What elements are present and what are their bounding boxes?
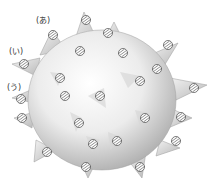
receptor-marker-icon: [16, 95, 25, 104]
receptor-marker-icon: [60, 92, 69, 101]
receptor-marker-icon: [189, 84, 198, 93]
receptor-marker-icon: [75, 47, 84, 56]
label-a: (あ): [36, 17, 50, 25]
receptor-marker-icon: [74, 119, 83, 128]
receptor-marker-icon: [152, 65, 161, 74]
receptor-marker-icon: [135, 77, 144, 86]
receptor-marker-icon: [140, 114, 149, 123]
receptor-marker-icon: [103, 29, 112, 38]
label-u: (う): [7, 84, 21, 92]
receptor-marker-icon: [48, 31, 57, 40]
receptor-marker-icon: [81, 163, 90, 172]
receptor-marker-icon: [95, 92, 104, 101]
receptor-marker-icon: [112, 137, 121, 146]
receptor-marker-icon: [171, 137, 180, 146]
receptor-marker-icon: [118, 49, 127, 58]
receptor-marker-icon: [163, 41, 172, 50]
spiked-sphere-figure: [0, 0, 217, 188]
receptor-marker-icon: [42, 148, 51, 157]
receptor-marker-icon: [176, 113, 185, 122]
label-i: (い): [9, 48, 23, 56]
receptor-marker-icon: [55, 74, 64, 83]
receptor-marker-icon: [17, 114, 26, 123]
receptor-marker-icon: [135, 163, 144, 172]
receptor-marker-icon: [81, 16, 90, 25]
receptor-marker-icon: [19, 60, 28, 69]
receptor-marker-icon: [88, 140, 97, 149]
